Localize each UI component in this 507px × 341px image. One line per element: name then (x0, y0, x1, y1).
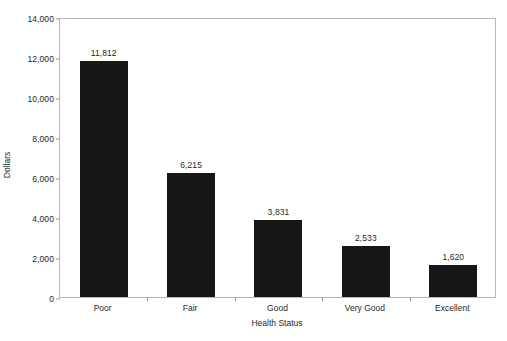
x-axis-tick-mark (322, 297, 323, 301)
x-axis-tick-mark (235, 297, 236, 301)
bar (80, 61, 128, 297)
x-axis-tick-mark (147, 297, 148, 301)
bar-slot: 2,533 (322, 19, 409, 297)
x-axis-category-label: Very Good (345, 303, 385, 313)
bar-value-label: 2,533 (355, 233, 377, 243)
plot-area: 02,0004,0006,0008,00010,00012,00014,000 … (59, 18, 496, 298)
x-axis-category-label: Good (267, 303, 288, 313)
bar-slot: 1,620 (410, 19, 497, 297)
x-axis-category-label: Fair (183, 303, 198, 313)
y-axis-tick-mark (56, 299, 60, 300)
x-axis-category-label: Poor (94, 303, 112, 313)
bar-value-label: 3,831 (268, 207, 290, 217)
bar (254, 220, 302, 297)
bar (429, 265, 477, 297)
bar-value-label: 1,620 (442, 252, 464, 262)
bar-value-label: 6,215 (180, 160, 202, 170)
x-axis-category-label: Excellent (435, 303, 470, 313)
bar (342, 246, 390, 297)
bar-slot: 6,215 (147, 19, 234, 297)
bar-value-label: 11,812 (91, 48, 117, 58)
bar-slot: 11,812 (60, 19, 147, 297)
bar-slot: 3,831 (235, 19, 322, 297)
x-axis-tick-mark (410, 297, 411, 301)
y-axis-title: Dollars (2, 152, 12, 178)
bar (167, 173, 215, 297)
x-axis-title: Health Status (251, 318, 302, 328)
bar-chart: Dollars 02,0004,0006,0008,00010,00012,00… (0, 0, 507, 341)
